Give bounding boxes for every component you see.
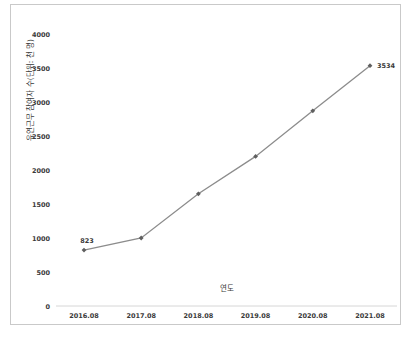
x-tick-label: 2016.08	[69, 312, 99, 320]
x-tick-label: 2017.08	[126, 312, 156, 320]
y-tick-label: 500	[36, 269, 50, 277]
y-tick-label: 1500	[32, 201, 51, 209]
y-tick-label: 4000	[32, 31, 51, 39]
chart-layer: 050010001500200025003000350040002016.082…	[32, 31, 397, 321]
y-tick-label: 0	[45, 303, 50, 311]
data-point-label: 3534	[377, 62, 396, 70]
x-tick-label: 2019.08	[241, 312, 271, 320]
x-tick-label: 2018.08	[184, 312, 214, 320]
line-chart: 유연근무 참여자 수(단위: 천 명) 연도 05001000150020002…	[0, 0, 411, 341]
x-tick-label: 2021.08	[355, 312, 385, 320]
y-tick-label: 2000	[32, 167, 51, 175]
y-axis-title: 유연근무 참여자 수(단위: 천 명)	[25, 39, 35, 141]
data-point-label: 823	[80, 237, 94, 245]
y-tick-label: 1000	[32, 235, 51, 243]
data-point-marker	[82, 248, 87, 253]
chart-image: 유연근무 참여자 수(단위: 천 명) 연도 05001000150020002…	[0, 0, 411, 341]
y-tick-label: 2500	[32, 133, 51, 141]
series-line	[84, 66, 370, 250]
x-tick-label: 2020.08	[298, 312, 328, 320]
y-tick-label: 3500	[32, 65, 51, 73]
y-tick-label: 3000	[32, 99, 51, 107]
x-axis-title: 연도	[220, 284, 234, 293]
